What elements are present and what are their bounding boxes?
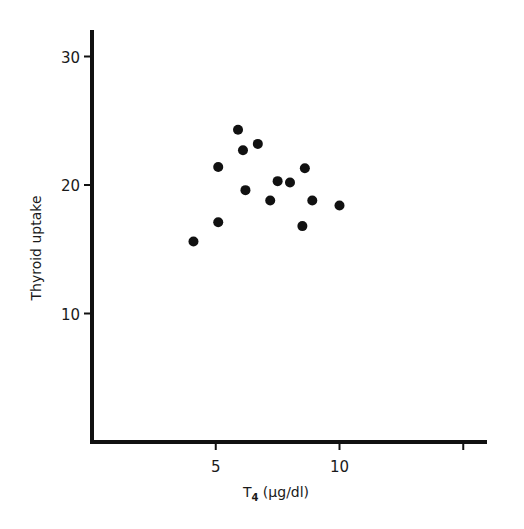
x-axis-label-subscript: 4 bbox=[251, 492, 258, 503]
axes bbox=[92, 32, 485, 442]
y-tick-label: 20 bbox=[61, 177, 80, 195]
data-point bbox=[297, 221, 307, 231]
y-tick-label: 10 bbox=[61, 306, 80, 324]
data-point bbox=[253, 139, 263, 149]
x-tick-label: 5 bbox=[211, 458, 221, 476]
x-tick-label: 10 bbox=[330, 458, 349, 476]
data-point bbox=[300, 163, 310, 173]
data-point bbox=[265, 195, 275, 205]
ticks: 510102030 bbox=[61, 49, 463, 477]
data-point bbox=[335, 201, 345, 211]
data-point bbox=[307, 195, 317, 205]
data-point bbox=[188, 237, 198, 247]
y-tick-label: 30 bbox=[61, 49, 80, 67]
data-point bbox=[285, 177, 295, 187]
data-point bbox=[233, 125, 243, 135]
data-point bbox=[273, 176, 283, 186]
data-points bbox=[188, 125, 344, 247]
x-axis-label-main: T bbox=[242, 484, 252, 500]
data-point bbox=[238, 145, 248, 155]
data-point bbox=[240, 185, 250, 195]
y-axis-label: Thyroid uptake bbox=[28, 196, 44, 302]
data-point bbox=[213, 162, 223, 172]
x-axis-label-units: (μg/dl) bbox=[258, 484, 309, 500]
scatter-chart: 510102030 Thyroid uptake T4 (μg/dl) bbox=[0, 0, 524, 529]
data-point bbox=[213, 217, 223, 227]
x-axis-label: T4 (μg/dl) bbox=[242, 484, 309, 503]
